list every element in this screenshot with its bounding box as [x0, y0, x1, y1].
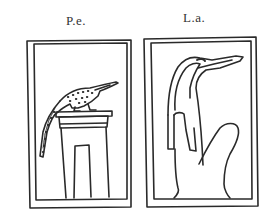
figures-illustration [0, 0, 279, 220]
right-frame [144, 37, 258, 207]
crocodile-headed-figure-icon [168, 56, 243, 198]
shrine-icon [56, 111, 112, 198]
